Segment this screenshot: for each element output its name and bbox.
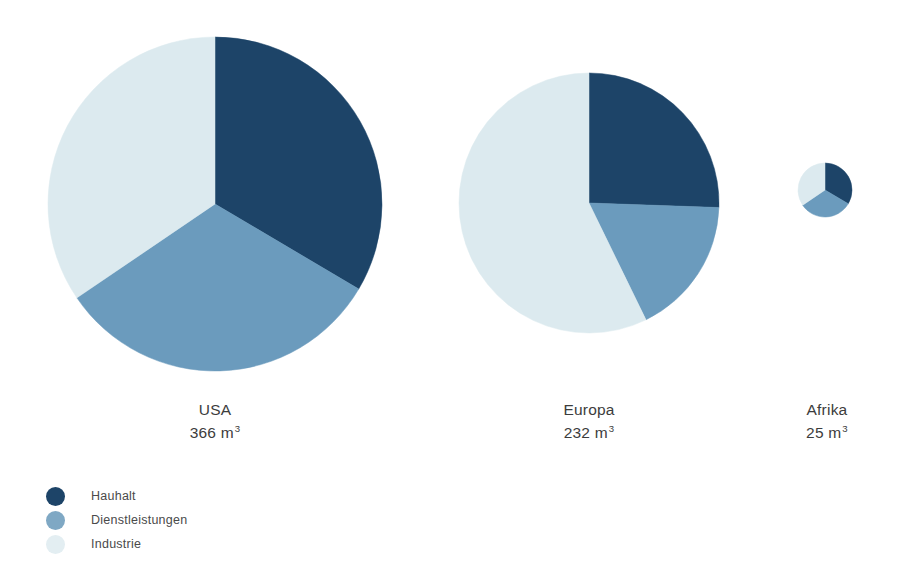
legend-label: Dienstleistungen [91, 513, 187, 527]
region-label: Europa [524, 398, 654, 421]
region-label: Afrika [762, 398, 892, 421]
legend-swatch-icon [46, 487, 65, 506]
legend-item-dienstleistungen: Dienstleistungen [46, 508, 187, 532]
pie-caption-europa: Europa232 m3 [524, 398, 654, 445]
region-label: USA [150, 398, 280, 421]
region-value: 232 m3 [524, 421, 654, 444]
region-value: 25 m3 [762, 421, 892, 444]
chart-legend: HauhaltDienstleistungenIndustrie [46, 484, 187, 556]
pie-chart-afrika [796, 161, 854, 219]
pie-chart-usa [46, 35, 384, 373]
region-value-exponent: 3 [609, 423, 615, 434]
region-value-exponent: 3 [235, 423, 241, 434]
region-value-exponent: 3 [842, 423, 848, 434]
legend-label: Hauhalt [91, 489, 136, 503]
region-value-number: 25 m [806, 424, 841, 441]
legend-swatch-icon [46, 511, 65, 530]
pie-chart-europa [457, 71, 721, 335]
region-value-number: 232 m [564, 424, 608, 441]
pie-caption-afrika: Afrika25 m3 [762, 398, 892, 445]
legend-item-hauhalt: Hauhalt [46, 484, 187, 508]
pie-slice-hauhalt [589, 73, 719, 208]
region-value-number: 366 m [190, 424, 234, 441]
legend-label: Industrie [91, 537, 141, 551]
legend-swatch-icon [46, 535, 65, 554]
chart-canvas: USA366 m3Europa232 m3Afrika25 m3 Hauhalt… [0, 0, 913, 582]
legend-item-industrie: Industrie [46, 532, 187, 556]
region-value: 366 m3 [150, 421, 280, 444]
pie-caption-usa: USA366 m3 [150, 398, 280, 445]
